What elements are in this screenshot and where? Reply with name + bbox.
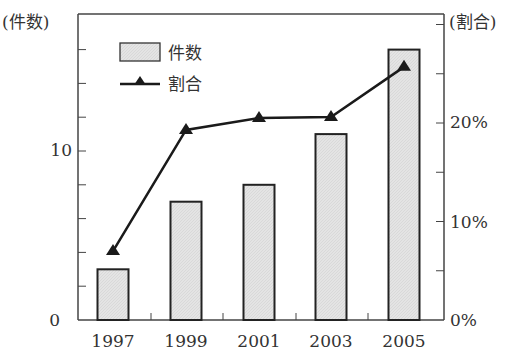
legend-label-ratio: 割合 [168, 74, 202, 94]
x-label-2005: 2005 [382, 331, 425, 351]
left-axis-title: (件数) [2, 12, 49, 32]
triangle-marker-icon [252, 111, 266, 122]
triangle-marker-icon [106, 244, 120, 255]
legend-label-count: 件数 [168, 43, 202, 63]
left-axis-ticks [78, 50, 86, 287]
right-tick-label-0: 0% [450, 310, 477, 330]
x-label-1999: 1999 [164, 331, 207, 351]
right-axis-title: (割合) [449, 12, 496, 32]
bar-2001 [244, 185, 275, 320]
combo-chart: (件数) (割合) 0 10 0% 10% 20% 1997 1999 2001… [0, 0, 515, 358]
right-tick-label-10: 10% [450, 212, 488, 232]
right-tick-label-20: 20% [450, 112, 488, 132]
x-label-2001: 2001 [237, 331, 280, 351]
left-tick-label-10: 10 [50, 140, 72, 160]
triangle-marker-icon [134, 76, 146, 85]
bar-1997 [98, 269, 129, 320]
left-tick-label-0: 0 [49, 310, 60, 330]
bar-2003 [316, 134, 347, 320]
bar-2005 [389, 50, 420, 320]
bar-1999 [171, 202, 202, 320]
right-axis-ticks [436, 25, 444, 271]
x-label-2003: 2003 [309, 331, 352, 351]
legend-bar-swatch [120, 43, 160, 61]
legend: 件数 割合 [120, 43, 202, 94]
triangle-marker-icon [324, 110, 338, 121]
x-label-1997: 1997 [91, 331, 134, 351]
